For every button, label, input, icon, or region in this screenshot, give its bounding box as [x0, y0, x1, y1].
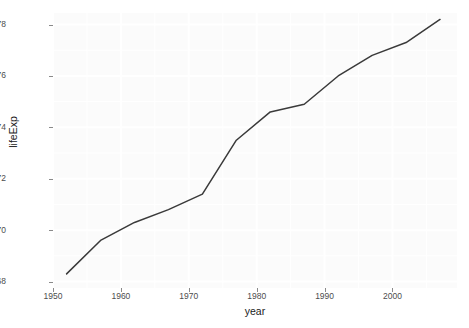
x-tick-label-1970: 1970: [164, 292, 214, 301]
plot-panel: [53, 13, 457, 288]
y-tick-label-78: 78: [0, 20, 6, 29]
y-tick-mark-68: [49, 282, 53, 283]
x-axis-title: year: [53, 305, 457, 317]
y-tick-mark-78: [49, 25, 53, 26]
y-tick-label-72: 72: [0, 174, 6, 183]
y-tick-label-68: 68: [0, 277, 6, 286]
y-tick-mark-74: [49, 127, 53, 128]
y-tick-mark-76: [49, 76, 53, 77]
y-tick-label-70: 70: [0, 226, 6, 235]
x-tick-label-1980: 1980: [232, 292, 282, 301]
x-tick-mark-1950: [53, 288, 54, 292]
x-tick-label-1950: 1950: [28, 292, 78, 301]
x-tick-label-1960: 1960: [96, 292, 146, 301]
x-tick-mark-1990: [325, 288, 326, 292]
x-tick-mark-1980: [257, 288, 258, 292]
y-tick-label-74: 74: [0, 123, 6, 132]
x-tick-label-1990: 1990: [300, 292, 350, 301]
data-series-line: [53, 13, 457, 288]
chart-root: 687072747678 195019601970198019902000 ye…: [0, 0, 469, 328]
y-tick-label-76: 76: [0, 71, 6, 80]
y-axis-title: lifeExp: [7, 97, 19, 167]
x-tick-mark-1960: [121, 288, 122, 292]
x-tick-mark-2000: [392, 288, 393, 292]
series-line-0: [67, 19, 440, 273]
y-tick-mark-70: [49, 230, 53, 231]
x-tick-mark-1970: [189, 288, 190, 292]
y-tick-mark-72: [49, 179, 53, 180]
x-tick-label-2000: 2000: [367, 292, 417, 301]
